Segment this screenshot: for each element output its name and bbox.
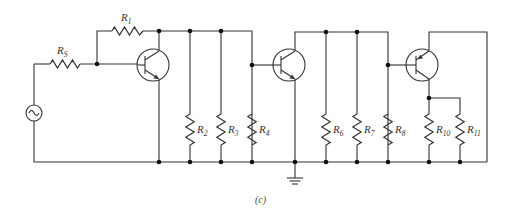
junction-dot	[219, 29, 224, 34]
junction-dot	[427, 160, 432, 165]
resistor-r4-icon	[248, 114, 256, 145]
resistor-r7-icon	[353, 114, 361, 145]
junction-dot	[324, 160, 329, 165]
resistor-r8-icon	[384, 114, 392, 145]
resistor-rs-icon	[50, 60, 80, 68]
junction-dot	[293, 160, 298, 165]
junction-dot	[355, 30, 360, 35]
resistor-r6-icon	[322, 114, 330, 145]
wire-q3-top-right-loop	[429, 32, 487, 162]
junction-dot	[386, 160, 391, 165]
resistor-r6-label: R6	[332, 123, 344, 138]
junction-dot	[157, 160, 162, 165]
ground-icon	[287, 178, 303, 184]
junction-dot	[355, 160, 360, 165]
junction-dot	[324, 30, 329, 35]
junction-dot	[157, 29, 162, 34]
junction-dot	[458, 160, 463, 165]
resistor-r1-label: R1	[120, 11, 131, 26]
resistor-r10-label: R10	[435, 123, 450, 138]
transistor-q3-pnp-icon	[406, 49, 438, 81]
resistor-r10-icon	[425, 114, 433, 145]
resistor-r4-label: R4	[258, 123, 270, 138]
junction-dot	[250, 160, 255, 165]
resistor-rs-label: RS	[56, 44, 68, 59]
resistor-r3-icon	[217, 114, 225, 145]
junction-dot	[219, 160, 224, 165]
junction-dot	[427, 96, 432, 101]
resistor-r8-label: R8	[394, 123, 406, 138]
junction-dot	[95, 62, 100, 67]
junction-dot	[188, 29, 193, 34]
transistor-q1-npn-icon	[137, 49, 169, 81]
resistor-r3-label: R3	[227, 123, 239, 138]
resistor-r7-label: R7	[363, 123, 375, 138]
junction-dot	[386, 63, 391, 68]
resistor-r2-label: R2	[196, 123, 208, 138]
junction-dot	[188, 160, 193, 165]
wire-r1-left	[97, 31, 112, 64]
circuit-diagram: RS R1 R2R3R4R6R7R8R10R11 (c)	[0, 0, 511, 216]
transistor-q2-npn-icon	[273, 49, 305, 81]
junction-dot	[250, 63, 255, 68]
figure-caption: (c)	[255, 194, 267, 206]
ac-source-icon	[26, 105, 42, 121]
resistor-r2-icon	[186, 114, 194, 145]
wires	[34, 31, 487, 178]
resistor-r1-icon	[112, 27, 143, 35]
resistor-r11-icon	[456, 114, 464, 145]
resistor-r11-label: R11	[466, 123, 481, 138]
